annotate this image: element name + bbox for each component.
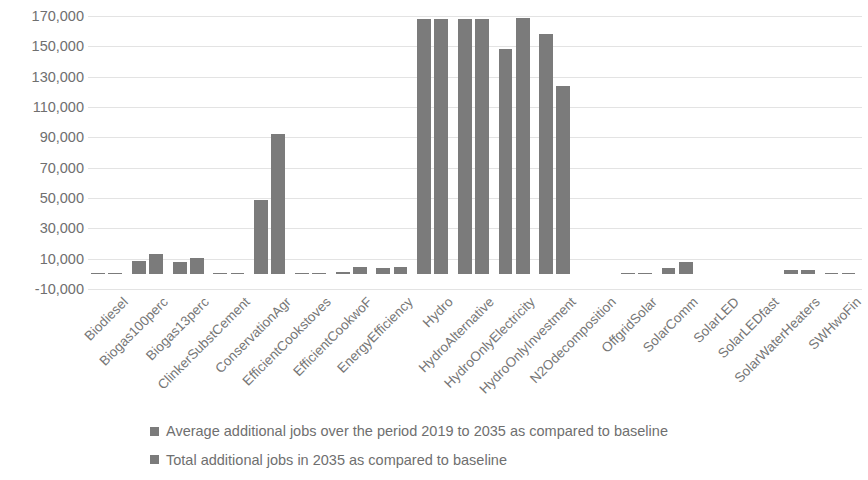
x-axis-tick-labels: BiodieselBiogas100percBiogas13percClinke… xyxy=(88,291,862,401)
bar xyxy=(312,273,326,274)
bar xyxy=(254,200,268,274)
bar xyxy=(825,273,839,274)
bar-group xyxy=(781,16,822,289)
bar xyxy=(662,268,676,274)
bar xyxy=(295,273,309,274)
bar xyxy=(434,19,448,274)
x-axis-tick-label: EnergyEfficiency xyxy=(335,295,415,375)
legend-item-label: Average additional jobs over the period … xyxy=(166,424,668,439)
bar xyxy=(539,34,553,274)
bar xyxy=(376,268,390,274)
bar xyxy=(417,19,431,274)
bar xyxy=(679,262,693,273)
legend-item: Total additional jobs in 2035 as compare… xyxy=(150,453,850,468)
gridline xyxy=(88,289,862,290)
bar xyxy=(190,258,204,273)
bar-group xyxy=(169,16,210,289)
bar-group xyxy=(699,16,740,289)
bar xyxy=(475,19,489,274)
bar xyxy=(784,270,798,274)
bar xyxy=(91,273,105,274)
bar xyxy=(213,273,227,274)
bar-group xyxy=(210,16,251,289)
y-axis-tick-label: 70,000 xyxy=(6,161,84,176)
bar xyxy=(556,86,570,274)
bar-group xyxy=(577,16,618,289)
bar xyxy=(801,270,815,274)
bar-group xyxy=(658,16,699,289)
legend-swatch-icon xyxy=(150,455,159,464)
bar xyxy=(173,262,187,274)
bar xyxy=(132,261,146,274)
jobs-bar-chart: 170,000150,000130,000110,00090,00070,000… xyxy=(0,0,868,480)
bar-group xyxy=(251,16,292,289)
y-axis-tick-label: 150,000 xyxy=(6,39,84,54)
bar-group xyxy=(536,16,577,289)
legend-item: Average additional jobs over the period … xyxy=(150,424,850,439)
bar xyxy=(458,19,472,274)
y-axis-tick-label: 130,000 xyxy=(6,70,84,85)
legend-swatch-icon xyxy=(150,427,159,436)
chart-legend: Average additional jobs over the period … xyxy=(150,424,850,480)
legend-item-label: Total additional jobs in 2035 as compare… xyxy=(166,453,507,468)
bar xyxy=(353,267,367,274)
bar xyxy=(842,273,856,274)
bar-group xyxy=(414,16,455,289)
bar-group xyxy=(129,16,170,289)
x-axis-tick-label: Hydro xyxy=(421,295,456,330)
bar-group xyxy=(618,16,659,289)
bar xyxy=(516,18,530,274)
bar xyxy=(638,273,652,274)
bar-group xyxy=(821,16,862,289)
bar-group xyxy=(88,16,129,289)
y-axis-tick-label: 110,000 xyxy=(6,100,84,115)
bar-group xyxy=(292,16,333,289)
bar xyxy=(231,273,245,274)
bar-group xyxy=(455,16,496,289)
bar xyxy=(394,267,408,274)
bar xyxy=(108,273,122,274)
y-axis-tick-label: 90,000 xyxy=(6,130,84,145)
bar-group xyxy=(332,16,373,289)
bar xyxy=(149,254,163,274)
bar xyxy=(271,134,285,274)
y-axis-tick-label: 10,000 xyxy=(6,252,84,267)
bar xyxy=(336,272,350,274)
y-axis-tick-label: 30,000 xyxy=(6,221,84,236)
plot-area xyxy=(88,16,862,289)
bar-group xyxy=(495,16,536,289)
y-axis-tick-label: -10,000 xyxy=(6,282,84,297)
bar-group xyxy=(373,16,414,289)
bar-group xyxy=(740,16,781,289)
y-axis-tick-label: 170,000 xyxy=(6,9,84,24)
bar xyxy=(499,49,513,273)
y-axis-tick-label: 50,000 xyxy=(6,191,84,206)
bar xyxy=(621,273,635,274)
y-axis-tick-labels: 170,000150,000130,000110,00090,00070,000… xyxy=(0,0,84,300)
